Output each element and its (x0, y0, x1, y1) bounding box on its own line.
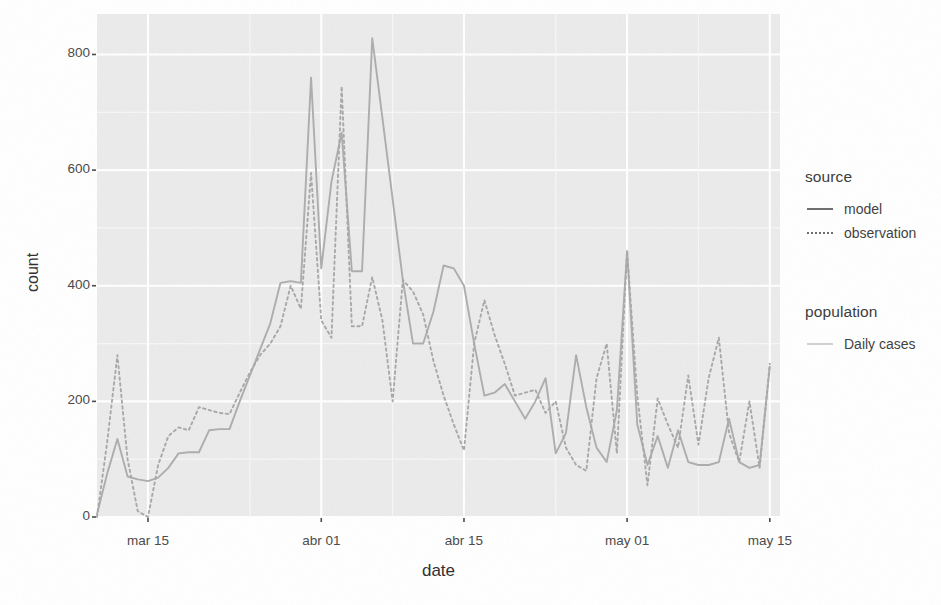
legend-area: source model observation population D (795, 0, 941, 605)
legend-key-daily-cases-icon (805, 334, 835, 354)
legend-title-population: population (805, 303, 916, 321)
legend-key-model-icon (805, 199, 835, 219)
x-tick-label: mar 15 (98, 533, 198, 548)
x-tick-label: abr 01 (271, 533, 371, 548)
y-axis-title: count (24, 252, 42, 291)
legend-group-source: source model observation (805, 168, 916, 245)
legend-item-model[interactable]: model (805, 197, 916, 221)
legend-label-observation: observation (844, 225, 916, 241)
chart-figure: 0200400600800mar 15abr 01abr 15may 01may… (0, 0, 941, 605)
x-tick-label: abr 15 (414, 533, 514, 548)
legend-key-observation-icon (805, 223, 835, 243)
legend-label-model: model (844, 201, 882, 217)
plot-area: 0200400600800mar 15abr 01abr 15may 01may… (0, 0, 790, 605)
x-axis-title: date (97, 561, 780, 581)
y-tick-label: 800 (20, 45, 90, 60)
legend-item-observation[interactable]: observation (805, 221, 916, 245)
legend-title-source: source (805, 168, 916, 186)
x-tick-label: may 01 (577, 533, 677, 548)
y-tick-label: 600 (20, 161, 90, 176)
plot-svg (0, 0, 790, 605)
legend-label-daily-cases: Daily cases (844, 336, 916, 352)
plot-panel-background (97, 14, 780, 517)
legend-group-population: population Daily cases (805, 303, 916, 356)
y-tick-label: 200 (20, 392, 90, 407)
legend-item-daily-cases[interactable]: Daily cases (805, 332, 916, 356)
y-tick-label: 0 (20, 508, 90, 523)
